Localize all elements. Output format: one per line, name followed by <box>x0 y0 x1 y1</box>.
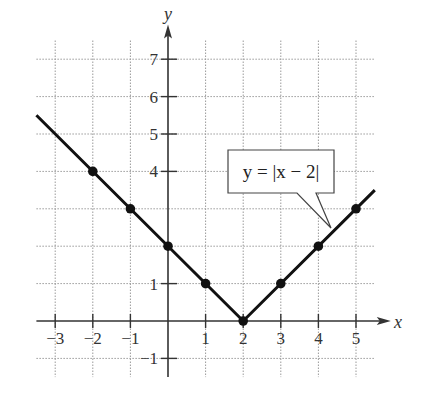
x-axis-label: x <box>393 312 402 332</box>
y-tick-label: 7 <box>150 50 159 69</box>
axes <box>36 25 390 378</box>
data-point <box>126 204 136 214</box>
x-tick-label: 2 <box>239 329 248 348</box>
x-tick-label: −3 <box>46 329 64 348</box>
x-tick-label: 3 <box>277 329 286 348</box>
y-tick-label: −1 <box>140 349 158 368</box>
y-tick-label: 1 <box>150 275 159 294</box>
equation-label: y = |x − 2| <box>243 161 320 182</box>
x-tick-label: 1 <box>201 329 210 348</box>
equation-callout: y = |x − 2| <box>228 150 334 228</box>
data-point <box>88 167 98 177</box>
data-point <box>314 241 324 251</box>
y-tick-label: 4 <box>150 162 159 181</box>
data-point <box>201 279 211 289</box>
x-tick-label: 5 <box>352 329 361 348</box>
x-tick-label: −1 <box>121 329 139 348</box>
data-point <box>276 279 286 289</box>
y-axis-label: y <box>162 4 172 24</box>
x-tick-label: −2 <box>84 329 102 348</box>
y-tick-label: 5 <box>150 125 159 144</box>
data-point <box>163 241 173 251</box>
y-tick-label: 6 <box>150 88 159 107</box>
data-point <box>238 316 248 326</box>
chart-canvas: −3−2−112345−114567 y = |x − 2| x y <box>0 0 425 396</box>
data-point <box>351 204 361 214</box>
x-tick-label: 4 <box>314 329 323 348</box>
